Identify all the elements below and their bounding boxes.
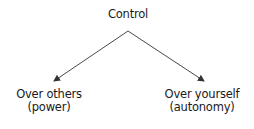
node-control-label: Control — [98, 8, 158, 21]
node-over-others-line2: (power) — [4, 101, 94, 114]
arrow-to-over-yourself — [128, 31, 204, 81]
arrow-to-over-others — [54, 31, 128, 81]
node-control: Control — [98, 8, 158, 21]
node-over-yourself-line2: (autonomy) — [156, 101, 248, 114]
node-over-others: Over others (power) — [4, 88, 94, 114]
node-over-yourself: Over yourself (autonomy) — [156, 88, 248, 114]
